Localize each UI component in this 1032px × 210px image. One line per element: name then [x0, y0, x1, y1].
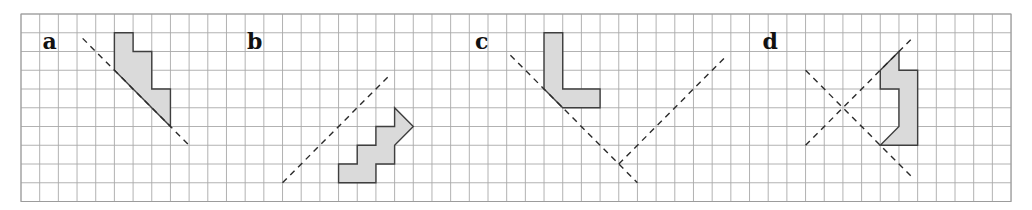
panel-c: c — [475, 28, 727, 183]
panel-d: d — [763, 28, 918, 179]
panel-label-d: d — [763, 28, 778, 54]
panel-label-c: c — [475, 28, 488, 54]
panel-a: a — [42, 28, 189, 146]
panel-b: b — [247, 28, 413, 183]
panel-label-b: b — [247, 28, 262, 54]
mirror-line — [619, 55, 727, 164]
panel-label-a: a — [42, 28, 56, 54]
reflection-grid-figure: a b c d — [0, 0, 1032, 210]
